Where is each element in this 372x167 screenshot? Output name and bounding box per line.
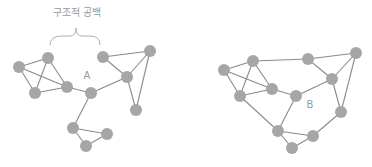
network-diagram: 구조적 공백 A B	[0, 0, 372, 167]
node-label-a: A	[84, 70, 91, 81]
structural-hole-label: 구조적 공백	[53, 7, 101, 18]
left-network-node	[80, 140, 92, 152]
left-network-node	[85, 87, 97, 99]
left-network-node	[144, 45, 156, 57]
left-network-edge	[136, 51, 150, 110]
right-network-node	[272, 125, 284, 137]
left-network-node	[121, 71, 133, 83]
left-network-node	[29, 87, 41, 99]
right-network-node	[234, 90, 246, 102]
left-network-node	[130, 104, 142, 116]
right-network-node	[218, 64, 230, 76]
right-network-node	[350, 47, 362, 59]
right-network-node	[290, 90, 302, 102]
left-network-node	[101, 128, 113, 140]
right-network-edge	[224, 70, 272, 89]
right-network-node	[307, 130, 319, 142]
right-network-node	[326, 73, 338, 85]
right-network-node	[247, 55, 259, 67]
node-label-b: B	[307, 99, 314, 110]
left-network-node	[61, 81, 73, 93]
brace-icon	[50, 28, 100, 45]
left-network-nodes	[13, 45, 156, 152]
left-network-node	[97, 51, 109, 63]
left-network-edges	[19, 51, 150, 146]
left-network-node	[13, 61, 25, 73]
right-network-node	[335, 106, 347, 118]
left-network-node	[67, 122, 79, 134]
right-network-nodes	[218, 47, 362, 154]
right-network-edge	[308, 53, 356, 59]
right-network-node	[266, 83, 278, 95]
right-network-edge	[253, 59, 308, 61]
left-network-node	[42, 52, 54, 64]
right-network-node	[286, 142, 298, 154]
right-network-edge	[240, 96, 278, 131]
right-network-node	[302, 53, 314, 65]
left-network-edge	[103, 51, 150, 57]
